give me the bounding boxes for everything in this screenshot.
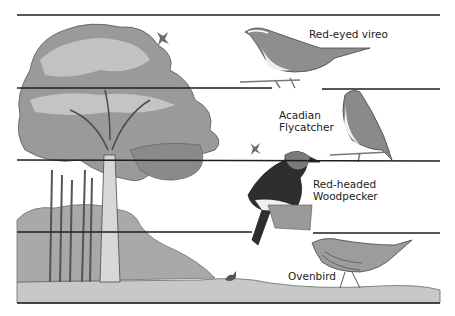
forest-strata-illustration: Red-eyed vireo Acadian Flycatcher Red-he… <box>0 0 455 316</box>
acadian-flycatcher-figure <box>330 91 392 162</box>
label-acadian-flycatcher: Acadian Flycatcher <box>279 109 334 133</box>
illustration-canvas <box>0 0 455 316</box>
small-flying-bird <box>250 143 261 155</box>
label-red-headed-woodpecker: Red-headed Woodpecker <box>313 178 378 202</box>
label-ovenbird: Ovenbird <box>288 270 336 282</box>
ground-strip <box>17 279 440 303</box>
label-red-eyed-vireo: Red-eyed vireo <box>309 28 388 40</box>
strata-line-subcanopy <box>17 160 440 161</box>
red-headed-woodpecker-figure <box>248 151 320 245</box>
small-flying-bird <box>157 32 169 46</box>
